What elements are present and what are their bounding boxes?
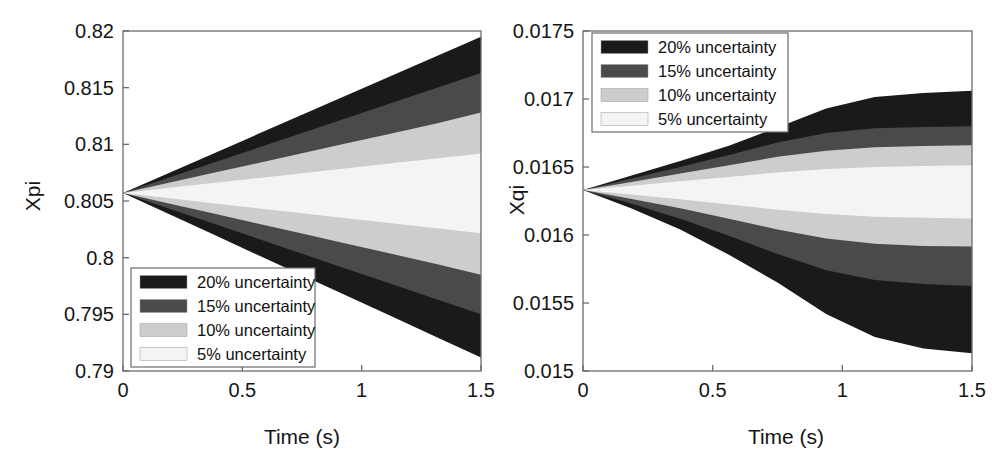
x-tick-label: 1.5 (958, 379, 986, 401)
plot-svg-left: 0.790.7950.80.8050.810.8150.8200.511.5 2… (0, 0, 496, 455)
legend-right[interactable]: 20% uncertainty15% uncertainty10% uncert… (592, 33, 788, 132)
legend-swatch (140, 348, 187, 361)
legend-entry-label: 20% uncertainty (197, 273, 316, 291)
y-axis-title-left: Xpi (21, 181, 44, 211)
x-tick-label: 0.5 (699, 379, 727, 401)
x-tick-label: 0 (117, 379, 128, 401)
y-tick-label: 0.0165 (513, 156, 574, 178)
legend-swatch (601, 113, 648, 126)
legend-entry-label: 10% uncertainty (658, 86, 777, 104)
plot-svg-right: 0.0150.01550.0160.01650.0170.017500.511.… (496, 0, 992, 455)
y-tick-label: 0.79 (75, 360, 114, 382)
x-tick-label: 1 (837, 379, 848, 401)
chart-canvas-right: 0.0150.01550.0160.01650.0170.017500.511.… (496, 0, 992, 455)
y-tick-label: 0.0155 (513, 292, 574, 314)
chart-panel-right: 0.0150.01550.0160.01650.0170.017500.511.… (496, 0, 992, 455)
y-tick-label: 0.805 (64, 190, 114, 212)
y-tick-label: 0.81 (75, 133, 114, 155)
legend-entry-label: 15% uncertainty (658, 62, 777, 80)
y-tick-label: 0.0175 (513, 20, 574, 42)
legend-swatch (140, 276, 187, 289)
y-tick-label: 0.8 (86, 247, 114, 269)
y-tick-label: 0.795 (64, 303, 114, 325)
x-axis-title-right: Time (s) (748, 425, 824, 448)
y-tick-label: 0.815 (64, 77, 114, 99)
x-tick-label: 0.5 (228, 379, 256, 401)
legend-entry-label: 15% uncertainty (197, 297, 316, 315)
legend-swatch (140, 300, 187, 313)
chart-canvas-left: 0.790.7950.80.8050.810.8150.8200.511.5 2… (0, 0, 496, 455)
chart-panel-left: 0.790.7950.80.8050.810.8150.8200.511.5 2… (0, 0, 496, 455)
legend-swatch (601, 41, 648, 54)
legend-swatch (601, 65, 648, 78)
legend-swatch (601, 89, 648, 102)
legend-entry-label: 20% uncertainty (658, 38, 777, 56)
legend-left[interactable]: 20% uncertainty15% uncertainty10% uncert… (131, 268, 316, 367)
figure-container: 0.790.7950.80.8050.810.8150.8200.511.5 2… (0, 0, 992, 455)
y-tick-label: 0.017 (524, 88, 574, 110)
legend-entry-label: 5% uncertainty (197, 345, 307, 363)
x-tick-label: 1.5 (467, 379, 495, 401)
x-tick-label: 0 (577, 379, 588, 401)
legend-entry-label: 5% uncertainty (658, 110, 768, 128)
legend-swatch (140, 324, 187, 337)
legend-entry-label: 10% uncertainty (197, 321, 316, 339)
y-axis-title-right: Xqi (505, 185, 528, 215)
x-tick-label: 1 (356, 379, 367, 401)
y-tick-label: 0.82 (75, 20, 114, 42)
y-tick-label: 0.016 (524, 224, 574, 246)
y-tick-label: 0.015 (524, 360, 574, 382)
x-axis-title-left: Time (s) (264, 425, 340, 448)
